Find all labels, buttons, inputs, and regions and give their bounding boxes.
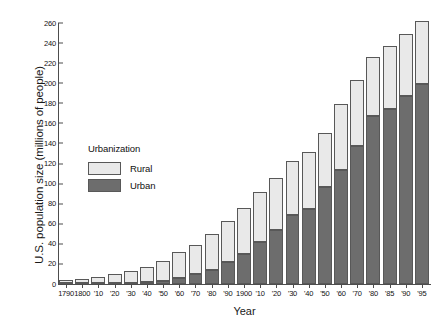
- bar-stack: [237, 208, 251, 284]
- x-axis-tick-mark: [212, 284, 213, 288]
- x-axis-tick-label: '30: [288, 289, 297, 298]
- y-axis-tick-mark: [58, 243, 63, 244]
- bar-segment-urban: [318, 187, 332, 284]
- x-axis-tick-mark: [66, 284, 67, 288]
- x-axis-tick-mark: [276, 284, 277, 288]
- x-axis-tick-label: '90: [401, 289, 410, 298]
- y-axis-tick-label: 160: [44, 119, 56, 128]
- x-axis-tick-label: '50: [159, 289, 168, 298]
- chart-legend: Urbanization Rural Urban: [88, 143, 155, 196]
- bar-segment-urban: [366, 116, 380, 284]
- bar-stack: [91, 277, 105, 284]
- x-axis-tick-label: 1790: [58, 289, 74, 298]
- bar-segment-rural: [269, 178, 283, 230]
- bar-stack: [205, 234, 219, 284]
- legend-swatch-urban: [88, 179, 121, 192]
- x-axis-tick-label: '80: [207, 289, 216, 298]
- bar-segment-urban: [415, 84, 429, 284]
- y-axis-tick: 100: [44, 179, 58, 189]
- legend-item-urban: Urban: [88, 179, 155, 192]
- y-axis-tick-mark: [58, 143, 63, 144]
- y-axis-tick-mark: [58, 123, 63, 124]
- x-axis-tick-mark: [98, 284, 99, 288]
- bar-stack: [189, 245, 203, 284]
- x-axis-tick-mark: [390, 284, 391, 288]
- y-axis-title-wrapper: U.S. population size (millions of people…: [6, 0, 28, 330]
- bar-segment-urban: [237, 254, 251, 284]
- x-axis-tick-label: '70: [353, 289, 362, 298]
- y-axis-tick: 40: [48, 239, 58, 249]
- bar-stack: [286, 161, 300, 284]
- bar-segment-rural: [366, 57, 380, 117]
- bar-stack: [253, 192, 267, 284]
- bar-segment-rural: [383, 46, 397, 109]
- bar-segment-urban: [221, 262, 235, 284]
- y-axis-tick: 20: [48, 259, 58, 269]
- bar-stack: [366, 57, 380, 284]
- x-axis-tick-mark: [293, 284, 294, 288]
- x-axis-tick-label: '70: [191, 289, 200, 298]
- x-axis-tick-mark: [195, 284, 196, 288]
- x-axis-title: Year: [58, 305, 431, 317]
- x-axis-tick-mark: [244, 284, 245, 288]
- x-axis-tick-mark: [228, 284, 229, 288]
- x-axis-tick-mark: [163, 284, 164, 288]
- x-axis-tick-label: '40: [304, 289, 313, 298]
- y-axis-tick-mark: [58, 63, 63, 64]
- y-axis-tick-label: 100: [44, 179, 56, 188]
- y-axis-tick: 220: [44, 58, 58, 68]
- bar-segment-rural: [140, 267, 154, 282]
- y-axis-tick-label: 80: [48, 199, 56, 208]
- bar-segment-urban: [302, 209, 316, 284]
- bar-segment-rural: [302, 152, 316, 209]
- y-axis-tick-label: 260: [44, 19, 56, 28]
- legend-label-rural: Rural: [130, 163, 152, 174]
- x-axis-tick-label: '40: [142, 289, 151, 298]
- legend-item-rural: Rural: [88, 162, 155, 175]
- bar-stack: [156, 261, 170, 284]
- y-axis-tick-mark: [58, 83, 63, 84]
- x-axis-tick-label: '10: [94, 289, 103, 298]
- x-axis-tick-mark: [147, 284, 148, 288]
- y-axis-tick-mark: [58, 263, 63, 264]
- bar-segment-urban: [399, 96, 413, 284]
- bar-segment-rural: [399, 34, 413, 96]
- bar-stack: [350, 80, 364, 284]
- legend-title: Urbanization: [88, 143, 155, 154]
- bar-stack: [140, 267, 154, 284]
- chart-figure: U.S. population size (millions of people…: [0, 0, 437, 330]
- bar-segment-urban: [286, 215, 300, 284]
- legend-label-urban: Urban: [130, 180, 155, 191]
- bar-segment-rural: [334, 104, 348, 170]
- x-axis-tick-mark: [341, 284, 342, 288]
- bar-stack: [221, 221, 235, 284]
- y-axis-tick-label: 200: [44, 79, 56, 88]
- x-axis-tick-label: '80: [369, 289, 378, 298]
- x-axis-tick-mark: [309, 284, 310, 288]
- x-axis-tick-label: '20: [272, 289, 281, 298]
- bar-stack: [172, 252, 186, 284]
- y-axis-tick-mark: [58, 43, 63, 44]
- y-axis-tick: 60: [48, 219, 58, 229]
- x-axis-tick-mark: [179, 284, 180, 288]
- bar-segment-rural: [415, 21, 429, 85]
- y-axis-tick-mark: [58, 23, 63, 24]
- bar-stack: [302, 152, 316, 284]
- bar-stack: [318, 133, 332, 284]
- x-axis-tick-mark: [325, 284, 326, 288]
- bar-segment-rural: [350, 80, 364, 147]
- x-axis-tick-mark: [357, 284, 358, 288]
- legend-swatch-rural: [88, 162, 121, 175]
- y-axis-tick: 80: [48, 199, 58, 209]
- x-axis-tick-mark: [131, 284, 132, 288]
- x-axis-tick-mark: [82, 284, 83, 288]
- x-axis-tick-label: 1800: [74, 289, 90, 298]
- y-axis-tick: 140: [44, 138, 58, 148]
- bar-segment-urban: [383, 109, 397, 284]
- x-axis-tick-label: '20: [110, 289, 119, 298]
- bar-stack: [383, 46, 397, 284]
- x-axis-tick-mark: [406, 284, 407, 288]
- x-axis-tick-label: '95: [417, 289, 426, 298]
- bar-stack: [124, 271, 138, 284]
- x-axis-tick-mark: [422, 284, 423, 288]
